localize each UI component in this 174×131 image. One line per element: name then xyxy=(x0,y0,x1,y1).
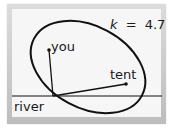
k-symbol: k xyxy=(110,17,118,32)
tent-label: tent xyxy=(110,67,136,82)
k-parameter-label: k = 4.7 xyxy=(110,17,165,32)
ellipse-diagram: you tent river k = 4.7 xyxy=(0,0,174,131)
segment-tent xyxy=(53,84,126,96)
tent-point xyxy=(124,82,128,86)
k-equals: = xyxy=(126,17,137,32)
k-value: 4.7 xyxy=(145,17,166,32)
river-label: river xyxy=(14,99,45,114)
you-label: you xyxy=(51,39,75,54)
